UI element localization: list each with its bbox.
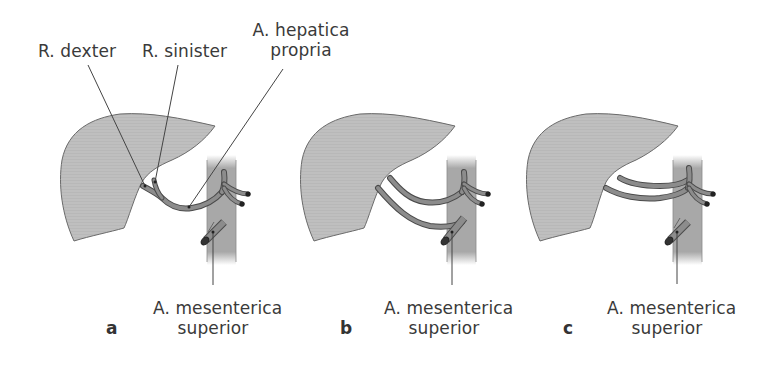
label-sma-line1: A. mesenterica [153, 298, 273, 318]
label-a-hepatica-line2: propria [246, 40, 356, 60]
panel-c-artwork [527, 114, 716, 284]
label-sma-panel-c: A. mesenterica superior [607, 298, 727, 338]
label-sma-line2: superior [153, 318, 273, 338]
label-sma-line2: superior [384, 318, 504, 338]
hepatic-artery-variants-figure: R. dexter R. sinister A. hepatica propri… [0, 0, 769, 370]
label-sma-line1: A. mesenterica [384, 298, 504, 318]
liver [301, 114, 456, 241]
panel-letter-a: a [106, 318, 117, 338]
liver [527, 114, 679, 241]
liver [61, 114, 216, 241]
label-r-sinister: R. sinister [142, 41, 227, 61]
label-a-hepatica-propria: A. hepatica propria [246, 20, 356, 60]
panel-a-artwork [61, 65, 284, 285]
panel-letter-b: b [340, 318, 352, 338]
label-sma-panel-a: A. mesenterica superior [153, 298, 273, 338]
label-sma-line1: A. mesenterica [607, 298, 727, 318]
label-r-dexter: R. dexter [38, 41, 116, 61]
label-sma-line2: superior [607, 318, 727, 338]
label-a-hepatica-line1: A. hepatica [246, 20, 356, 40]
label-sma-panel-b: A. mesenterica superior [384, 298, 504, 338]
panel-letter-c: c [563, 318, 573, 338]
panel-b-artwork [301, 114, 491, 285]
